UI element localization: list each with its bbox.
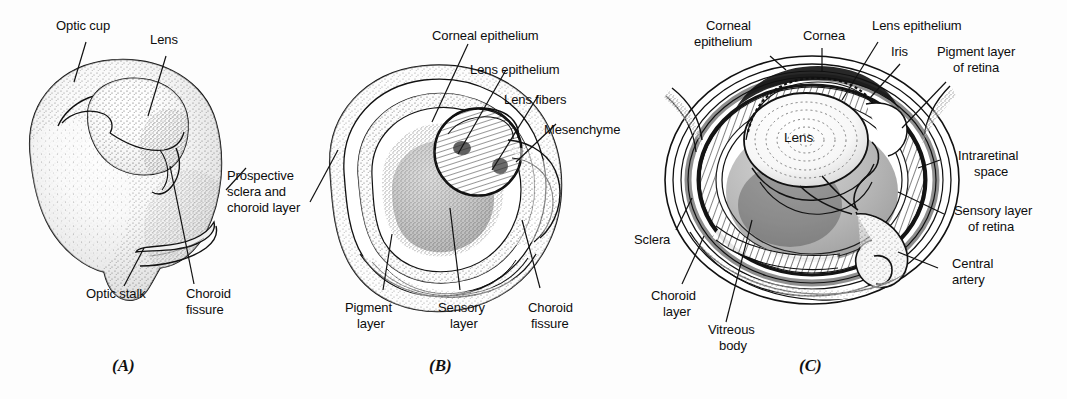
panel-a-illustration <box>0 0 1067 399</box>
figure-eye-development: Optic cup Lens Prospective sclera and ch… <box>0 0 1067 399</box>
panel-c-mature-eye-drawing <box>664 42 959 322</box>
label-c-sclera: Sclera <box>634 232 670 248</box>
label-b-choroid-fissure-line1: Choroid <box>528 300 573 316</box>
label-a-prospective-sclera-line3: choroid layer <box>227 200 300 216</box>
label-b-mesenchyme: Mesenchyme <box>544 122 620 138</box>
label-a-optic-stalk: Optic stalk <box>86 286 146 302</box>
panel-b-sectioned-eye-drawing <box>310 44 580 320</box>
label-a-prospective-sclera-line1: Prospective <box>227 168 294 184</box>
label-c-intraretinal-space-line1: Intraretinal <box>958 148 1018 164</box>
label-b-choroid-fissure-line2: fissure <box>531 316 569 332</box>
label-a-lens: Lens <box>150 32 178 48</box>
label-c-corneal-epithelium-line2: epithelium <box>694 34 752 50</box>
label-c-corneal-epithelium-line1: Corneal <box>706 18 751 34</box>
label-a-choroid-fissure-line1: Choroid <box>186 286 231 302</box>
label-b-pigment-layer-line2: layer <box>357 316 385 332</box>
label-a-choroid-fissure-line2: fissure <box>186 302 224 318</box>
caption-panel-b: (B) <box>429 356 452 376</box>
label-b-pigment-layer-line1: Pigment <box>345 300 392 316</box>
label-b-corneal-epithelium: Corneal epithelium <box>432 28 539 44</box>
label-b-lens-fibers: Lens fibers <box>504 92 567 108</box>
label-b-lens-epithelium: Lens epithelium <box>470 62 560 78</box>
label-c-vitreous-body-line1: Vitreous <box>708 322 755 338</box>
caption-panel-a: (A) <box>112 356 135 376</box>
label-c-iris: Iris <box>891 44 908 60</box>
label-c-lens-epithelium: Lens epithelium <box>872 18 962 34</box>
label-c-sensory-layer-line2: of retina <box>968 219 1014 235</box>
label-b-sensory-layer-line2: layer <box>450 316 478 332</box>
label-c-intraretinal-space-line2: space <box>974 164 1008 180</box>
label-a-prospective-sclera-line2: sclera and <box>227 184 286 200</box>
caption-panel-c: (C) <box>799 356 822 376</box>
label-c-central-artery-line1: Central <box>952 256 993 272</box>
label-c-vitreous-body-line2: body <box>719 338 747 354</box>
label-b-sensory-layer-line1: Sensory <box>438 300 485 316</box>
label-c-choroid-layer-line1: Choroid <box>651 288 696 304</box>
label-c-lens-inline: Lens <box>784 130 813 145</box>
label-c-central-artery-line2: artery <box>952 272 985 288</box>
label-c-pigment-layer-line2: of retina <box>953 60 999 76</box>
label-c-pigment-layer-line1: Pigment layer <box>937 44 1015 60</box>
label-c-cornea: Cornea <box>803 28 845 44</box>
panel-a-optic-cup-drawing <box>10 42 246 320</box>
label-c-choroid-layer-line2: layer <box>663 304 691 320</box>
label-a-optic-cup: Optic cup <box>56 18 110 34</box>
label-c-sensory-layer-line1: Sensory layer <box>954 203 1032 219</box>
